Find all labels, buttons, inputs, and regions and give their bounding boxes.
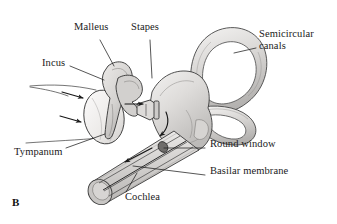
malleus-leader (100, 40, 114, 66)
label-semicircular-canals: Semicircular canals (259, 28, 329, 51)
stapes-footplate (154, 101, 159, 119)
sound-wave-arrow-lower (60, 116, 81, 122)
label-cochlea: Cochlea (125, 191, 160, 203)
label-tympanum: Tympanum (14, 146, 62, 158)
stapes-leader (150, 40, 152, 78)
label-round-window: Round window (210, 138, 276, 150)
label-basilar-membrane: Basilar membrane (210, 165, 288, 177)
label-stapes: Stapes (131, 21, 159, 33)
incus-leader (70, 66, 104, 80)
ear-anatomy-figure: Malleus Stapes Semicircular canals Incus… (0, 0, 337, 224)
panel-letter: B (12, 196, 19, 208)
label-incus: Incus (42, 57, 65, 69)
label-malleus: Malleus (74, 21, 109, 33)
stapes-bone (137, 100, 159, 120)
